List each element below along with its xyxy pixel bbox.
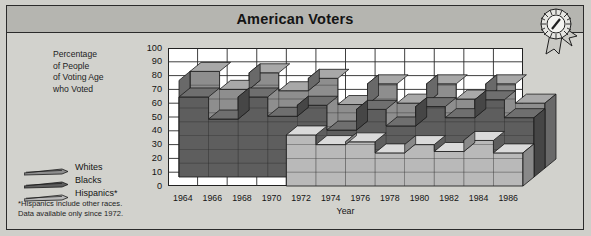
- y-tick-label: 70: [138, 85, 162, 94]
- x-tick-label: 1976: [345, 193, 375, 203]
- chart-figure: American Voters: [0, 0, 591, 236]
- legend: Whites Blacks Hispanics*: [24, 160, 154, 199]
- y-axis-caption-line-2: of People: [53, 61, 145, 73]
- y-tick-label: 60: [138, 99, 162, 108]
- footnote-line-1: *Hispanics include other races.: [18, 199, 178, 209]
- legend-label: Hispanics*: [75, 188, 118, 198]
- legend-item-whites: Whites: [24, 160, 154, 173]
- title-bar: American Voters: [7, 6, 583, 33]
- footnote: *Hispanics include other races. Data ava…: [18, 199, 178, 219]
- x-tick-label: 1984: [464, 193, 494, 203]
- plot-area: [168, 48, 523, 186]
- y-axis-caption: Percentage of People of Voting Age who V…: [53, 49, 145, 95]
- footnote-line-2: Data available only since 1972.: [18, 209, 178, 219]
- legend-label: Whites: [75, 162, 103, 172]
- y-tick-label: 100: [138, 44, 162, 53]
- page-title: American Voters: [236, 11, 353, 27]
- legend-item-hispanics: Hispanics*: [24, 186, 154, 199]
- legend-label: Blacks: [75, 175, 102, 185]
- y-axis-caption-line-4: who Voted: [53, 84, 145, 96]
- x-tick-label: 1968: [227, 193, 257, 203]
- y-axis-caption-line-1: Percentage: [53, 49, 145, 61]
- x-tick-label: 1974: [316, 193, 346, 203]
- x-axis-title: Year: [168, 206, 523, 216]
- x-tick-label: 1966: [197, 193, 227, 203]
- y-axis-caption-line-3: of Voting Age: [53, 72, 145, 84]
- x-tick-label: 1980: [404, 193, 434, 203]
- legend-swatch-hispanics-icon: [24, 188, 68, 197]
- y-tick-label: 80: [138, 71, 162, 80]
- legend-item-blacks: Blacks: [24, 173, 154, 186]
- award-rosette-icon: [528, 4, 584, 56]
- x-tick-label: 1982: [434, 193, 464, 203]
- x-tick-label: 1986: [493, 193, 523, 203]
- x-tick-label: 1978: [375, 193, 405, 203]
- legend-swatch-whites-icon: [24, 162, 68, 171]
- y-tick-label: 90: [138, 57, 162, 66]
- y-tick-label: 30: [138, 140, 162, 149]
- legend-swatch-blacks-icon: [24, 175, 68, 184]
- y-tick-label: 40: [138, 126, 162, 135]
- x-tick-label: 1972: [286, 193, 316, 203]
- x-tick-label: 1970: [257, 193, 287, 203]
- x-axis-ticks: 1964196619681970197219741976197819801982…: [168, 193, 526, 206]
- y-tick-label: 50: [138, 113, 162, 122]
- data-series: [168, 48, 523, 186]
